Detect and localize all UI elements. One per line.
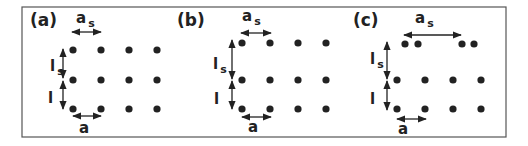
lattice-site-dot [97, 46, 104, 53]
panel-label: (b) [177, 10, 205, 30]
lattice-site-dot [125, 105, 132, 112]
lattice-site-dot [393, 105, 400, 112]
ls-label: ls [213, 55, 227, 76]
as-label: as [76, 9, 95, 30]
panel-c: (c)aslsla [353, 9, 485, 138]
ls-label: ls [370, 50, 384, 71]
lattice-site-dot [266, 39, 273, 46]
lattice-site-dot [125, 76, 132, 83]
lattice-site-dot [421, 76, 428, 83]
lattice-diagram-figure: (a)aslsla(b)aslsla(c)aslsla [0, 0, 528, 146]
lattice-site-dot [238, 76, 245, 83]
lattice-site-dot [322, 76, 329, 83]
lattice-site-dot [294, 39, 301, 46]
lattice-site-dot [322, 105, 329, 112]
lattice-site-dot [421, 105, 428, 112]
lattice-site-dot [266, 105, 273, 112]
lattice-site-dot [414, 40, 421, 47]
lattice-site-dot [153, 46, 160, 53]
lattice-site-dot [449, 76, 456, 83]
lattice-site-dot [449, 105, 456, 112]
lattice-site-dot [294, 105, 301, 112]
lattice-site-dot [69, 105, 76, 112]
lattice-site-dot [69, 76, 76, 83]
lattice-site-dot [69, 46, 76, 53]
lattice-site-dot [477, 105, 484, 112]
lattice-site-dot [294, 76, 301, 83]
lattice-site-dot [322, 39, 329, 46]
lattice-site-dot [238, 105, 245, 112]
lattice-site-dot [266, 76, 273, 83]
lattice-site-dot [393, 76, 400, 83]
lattice-site-dot [477, 76, 484, 83]
a-label: a [79, 119, 89, 137]
lattice-site-dot [470, 40, 477, 47]
lattice-site-dot [97, 76, 104, 83]
lattice-site-dot [125, 46, 132, 53]
lattice-site-dot [238, 39, 245, 46]
lattice-site-dot [153, 76, 160, 83]
l-label: l [48, 89, 53, 107]
as-label: as [415, 9, 434, 30]
as-label: as [242, 7, 261, 28]
panels: (a)aslsla(b)aslsla(c)aslsla [30, 7, 485, 138]
panel-b: (b)aslsla [177, 7, 330, 136]
ls-label: ls [50, 57, 64, 78]
panel-label: (a) [30, 10, 57, 30]
a-label: a [398, 120, 408, 138]
l-label: l [214, 90, 219, 108]
a-label: a [248, 118, 258, 136]
panel-label: (c) [353, 10, 379, 30]
lattice-site-dot [401, 40, 408, 47]
lattice-site-dot [97, 105, 104, 112]
lattice-site-dot [458, 40, 465, 47]
lattice-site-dot [153, 105, 160, 112]
l-label: l [370, 90, 375, 108]
panel-a: (a)aslsla [30, 9, 161, 137]
